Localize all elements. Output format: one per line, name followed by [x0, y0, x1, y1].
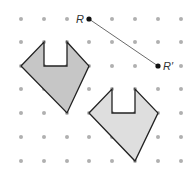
grid-dot [179, 64, 183, 68]
grid-dot [42, 111, 46, 115]
grid-dot [179, 40, 183, 44]
grid-dot [110, 40, 114, 44]
grid-dot [156, 135, 160, 139]
grid-dot [19, 40, 23, 44]
label-r-prime: R′ [163, 60, 174, 72]
grid-dot [179, 159, 183, 163]
grid-dot [179, 135, 183, 139]
grid-dot [65, 159, 69, 163]
point-r-prime [155, 63, 160, 68]
grid-dot [156, 40, 160, 44]
grid-dot [65, 17, 69, 21]
grid-dot [179, 111, 183, 115]
grid-dot [19, 111, 23, 115]
grid-dot [87, 87, 91, 91]
label-r: R [76, 13, 84, 25]
translation-diagram: R R′ [0, 0, 192, 180]
grid-dot [65, 135, 69, 139]
grid-dot [87, 40, 91, 44]
grid-dot [156, 159, 160, 163]
translated-shape [89, 89, 158, 161]
grid-dot [179, 17, 183, 21]
grid-dot [87, 159, 91, 163]
grid-dot [42, 135, 46, 139]
grid-dot [110, 64, 114, 68]
grid-dot [133, 64, 137, 68]
grid-dot [179, 87, 183, 91]
grid-dot [133, 40, 137, 44]
grid-dot [156, 87, 160, 91]
grid-dot [133, 17, 137, 21]
grid-dot [156, 17, 160, 21]
grid-dot [19, 17, 23, 21]
translation-vector-line [89, 19, 158, 66]
grid-dot [19, 135, 23, 139]
grid-dot [87, 135, 91, 139]
grid-dot [42, 17, 46, 21]
original-shape [21, 42, 89, 113]
grid-dot [42, 159, 46, 163]
grid-dot [19, 87, 23, 91]
grid-dot [110, 17, 114, 21]
grid-dot [110, 159, 114, 163]
point-r [86, 16, 91, 21]
grid-dot [19, 159, 23, 163]
